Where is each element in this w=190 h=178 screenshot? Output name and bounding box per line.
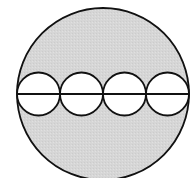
geometry-diagram xyxy=(0,0,190,178)
